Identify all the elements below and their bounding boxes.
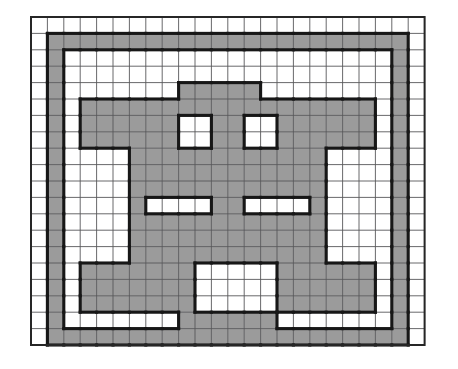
grid-cell-shaded: [179, 165, 195, 181]
grid-cell-shaded: [64, 329, 80, 345]
grid-cell-shaded: [293, 214, 309, 230]
grid-cell-shaded: [179, 99, 195, 115]
grid-cell-shaded: [129, 230, 145, 246]
grid-cell-shaded: [392, 66, 408, 82]
grid-cell-shaded: [277, 181, 293, 197]
grid-cell-shaded: [359, 115, 375, 131]
grid-cell-shaded: [310, 329, 326, 345]
grid-cell-shaded: [162, 115, 178, 131]
grid-cell-shaded: [47, 279, 63, 295]
grid-cell-shaded: [244, 83, 260, 99]
grid-cell-shaded: [113, 132, 129, 148]
grid-cell-shaded: [146, 279, 162, 295]
grid-cell-shaded: [261, 99, 277, 115]
grid-cell-shaded: [211, 132, 227, 148]
grid-cell-shaded: [47, 165, 63, 181]
grid-cell-shaded: [261, 33, 277, 49]
grid-cell-shaded: [47, 247, 63, 263]
grid-cell-shaded: [277, 33, 293, 49]
grid-cell-shaded: [277, 115, 293, 131]
grid-cell-shaded: [146, 214, 162, 230]
grid-cell-shaded: [392, 181, 408, 197]
grid-cell-shaded: [261, 165, 277, 181]
grid-cell-shaded: [162, 132, 178, 148]
grid-cell-shaded: [343, 132, 359, 148]
grid-cell-shaded: [244, 312, 260, 328]
grid-cell-shaded: [211, 214, 227, 230]
grid-cell-shaded: [392, 50, 408, 66]
grid-cell-shaded: [277, 296, 293, 312]
grid-cell-shaded: [179, 329, 195, 345]
grid-cell-shaded: [392, 214, 408, 230]
grid-cell-shaded: [244, 181, 260, 197]
grid-cell-shaded: [146, 181, 162, 197]
grid-cell-shaded: [310, 165, 326, 181]
grid-cell-shaded: [277, 263, 293, 279]
grid-cell-shaded: [162, 181, 178, 197]
grid-cell-shaded: [326, 33, 342, 49]
grid-cell-shaded: [228, 99, 244, 115]
grid-cell-shaded: [293, 132, 309, 148]
grid-cell-shaded: [359, 279, 375, 295]
grid-cell-shaded: [195, 329, 211, 345]
grid-cell-shaded: [129, 148, 145, 164]
grid-cell-shaded: [293, 230, 309, 246]
grid-cell-shaded: [162, 165, 178, 181]
grid-cell-shaded: [326, 115, 342, 131]
grid-cell-shaded: [146, 165, 162, 181]
grid-cell-shaded: [80, 132, 96, 148]
grid-cell-shaded: [97, 33, 113, 49]
grid-cell-shaded: [211, 181, 227, 197]
grid-cell-shaded: [261, 329, 277, 345]
grid-cell-shaded: [211, 329, 227, 345]
grid-cell-shaded: [129, 247, 145, 263]
gridlines-layer: [31, 17, 425, 345]
grid-cell-shaded: [359, 263, 375, 279]
grid-cell-shaded: [97, 329, 113, 345]
grid-cell-shaded: [244, 165, 260, 181]
grid-cell-shaded: [392, 247, 408, 263]
grid-cell-shaded: [310, 148, 326, 164]
grid-cell-shaded: [146, 132, 162, 148]
grid-cell-shaded: [195, 230, 211, 246]
grid-cell-shaded: [47, 115, 63, 131]
grid-cell-shaded: [343, 99, 359, 115]
grid-cell-shaded: [146, 296, 162, 312]
grid-cell-shaded: [375, 33, 391, 49]
grid-cell-shaded: [343, 279, 359, 295]
grid-cell-shaded: [277, 99, 293, 115]
grid-cell-shaded: [392, 132, 408, 148]
grid-cell-shaded: [80, 263, 96, 279]
grid-cell-shaded: [310, 181, 326, 197]
grid-cell-shaded: [129, 132, 145, 148]
grid-cell-shaded: [392, 115, 408, 131]
grid-cell-shaded: [47, 263, 63, 279]
grid-cell-shaded: [162, 214, 178, 230]
grid-cell-shaded: [195, 312, 211, 328]
grid-cell-shaded: [47, 99, 63, 115]
grid-cell-shaded: [195, 214, 211, 230]
grid-cell-shaded: [392, 83, 408, 99]
grid-cell-shaded: [80, 99, 96, 115]
grid-cell-shaded: [310, 115, 326, 131]
grid-cell-shaded: [113, 115, 129, 131]
grid-cell-shaded: [326, 296, 342, 312]
grid-cell-shaded: [211, 197, 227, 213]
grid-cell-shaded: [113, 99, 129, 115]
grid-cell-shaded: [97, 263, 113, 279]
grid-cell-shaded: [146, 33, 162, 49]
grid-cell-shaded: [162, 296, 178, 312]
grid-cell-shaded: [47, 148, 63, 164]
grid-cell-shaded: [293, 263, 309, 279]
grid-cell-shaded: [47, 66, 63, 82]
grid-cell-shaded: [97, 132, 113, 148]
grid-cell-shaded: [195, 165, 211, 181]
grid-cell-shaded: [179, 181, 195, 197]
grid-cell-shaded: [326, 132, 342, 148]
grid-cell-shaded: [179, 247, 195, 263]
grid-cell-shaded: [195, 33, 211, 49]
grid-cell-shaded: [392, 197, 408, 213]
grid-cell-shaded: [293, 115, 309, 131]
grid-cell-shaded: [146, 247, 162, 263]
grid-cell-shaded: [310, 132, 326, 148]
